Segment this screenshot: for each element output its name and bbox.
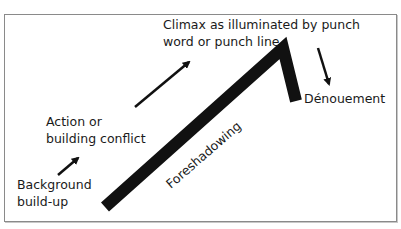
background-label: Background build-up <box>17 176 92 210</box>
denouement-label: Dénouement <box>304 90 385 107</box>
climax-label-line2: word or punch line <box>163 33 360 50</box>
arrow-background <box>58 158 78 175</box>
climax-label: Climax as illuminated by punch word or p… <box>163 16 360 50</box>
background-label-line1: Background <box>17 176 92 193</box>
action-label-line1: Action or <box>46 113 146 130</box>
action-label-line2: building conflict <box>46 130 146 147</box>
action-label: Action or building conflict <box>46 113 146 147</box>
arrow-denouement <box>318 48 329 84</box>
background-label-line2: build-up <box>17 193 92 210</box>
arrow-action <box>135 62 189 107</box>
climax-label-line1: Climax as illuminated by punch <box>163 16 360 33</box>
